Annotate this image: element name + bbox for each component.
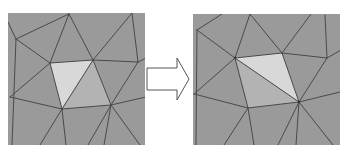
transform-arrow-icon: [147, 58, 189, 100]
mesh-vertex: [298, 101, 300, 103]
edge-flip-figure: [0, 0, 348, 151]
mesh-vertex: [234, 57, 236, 59]
panel-before: [8, 13, 146, 145]
panel-after: [193, 14, 341, 145]
